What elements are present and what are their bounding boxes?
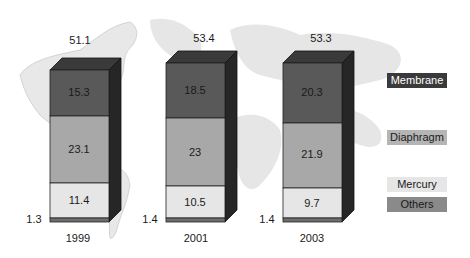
membrane-value-2003: 20.3 bbox=[283, 86, 341, 98]
total-label-2003: 53.3 bbox=[301, 32, 341, 44]
others-value-2003: 1.4 bbox=[255, 213, 279, 225]
mercury-value-1999: 11.4 bbox=[50, 194, 108, 206]
legend-diaphragm: Diaphragm bbox=[387, 130, 447, 145]
membrane-value-2001: 18.5 bbox=[166, 84, 224, 96]
year-label-2001: 2001 bbox=[176, 232, 216, 244]
diaphragm-value-1999: 23.1 bbox=[50, 143, 108, 155]
total-label-1999: 51.1 bbox=[60, 34, 100, 46]
diaphragm-value-2001: 23 bbox=[166, 146, 224, 158]
others-value-2001: 1.4 bbox=[138, 213, 162, 225]
year-label-2003: 2003 bbox=[292, 232, 332, 244]
diaphragm-value-2003: 21.9 bbox=[283, 148, 341, 160]
mercury-value-2001: 10.5 bbox=[166, 196, 224, 208]
total-label-2001: 53.4 bbox=[184, 32, 224, 44]
legend-mercury: Mercury bbox=[387, 177, 447, 192]
legend-others: Others bbox=[387, 197, 447, 212]
others-value-1999: 1.3 bbox=[22, 213, 46, 225]
membrane-value-1999: 15.3 bbox=[50, 86, 108, 98]
mercury-value-2003: 9.7 bbox=[283, 197, 341, 209]
legend-membrane: Membrane bbox=[387, 73, 447, 88]
year-label-1999: 1999 bbox=[58, 232, 98, 244]
